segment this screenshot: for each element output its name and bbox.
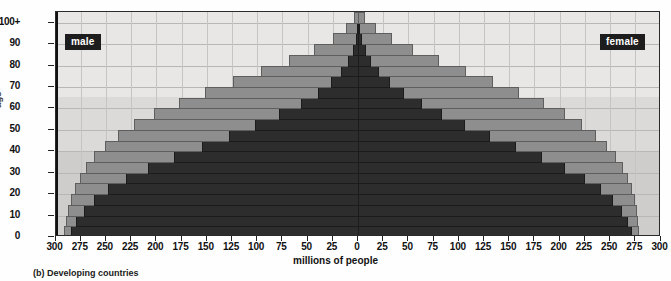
y-tick-label: 40	[0, 144, 20, 155]
y-tick-label: 100+	[0, 16, 20, 27]
bar-male-current-25-29	[126, 173, 359, 185]
bar-male-current-75-79	[341, 66, 359, 78]
bar-female-current-90-94	[358, 33, 362, 45]
bar-male-current-45-49	[229, 130, 359, 142]
bar-female-current-25-29	[358, 173, 585, 185]
y-tick	[48, 86, 54, 87]
bar-male-current-50-54	[255, 119, 359, 131]
bar-female-current-5-9	[358, 216, 628, 228]
bar-male-current-40-44	[202, 141, 359, 153]
y-tick	[48, 215, 54, 216]
bar-male-current-20-24	[108, 183, 359, 195]
y-tick-label: 0	[0, 230, 20, 241]
bar-female-current-45-49	[358, 130, 490, 142]
bar-female-current-30-34	[358, 162, 565, 174]
bar-male-current-55-59	[279, 108, 359, 120]
bar-female-current-75-79	[358, 66, 379, 78]
bar-female-current-40-44	[358, 141, 516, 153]
bar-female-projected-90-94	[358, 33, 392, 45]
y-tick	[48, 236, 54, 237]
y-tick-label: 80	[0, 59, 20, 70]
bar-female-current-55-59	[358, 108, 442, 120]
y-tick-label: 60	[0, 101, 20, 112]
bar-female-projected-85-89	[358, 44, 413, 56]
y-tick	[48, 150, 54, 151]
bar-male-current-35-39	[174, 151, 359, 163]
y-tick	[48, 65, 54, 66]
center-axis-line	[56, 12, 58, 235]
figure-caption: (b) Developing countries	[33, 268, 139, 280]
plot-area	[55, 11, 660, 236]
bar-female-current-85-89	[358, 44, 366, 56]
bar-female-current-60-64	[358, 98, 422, 110]
legend-male: male	[65, 34, 101, 50]
population-pyramid-figure: age 0102030405060708090100+ 300275250225…	[0, 0, 671, 281]
bar-female-current-20-24	[358, 183, 601, 195]
y-tick	[48, 193, 54, 194]
bar-female-projected-95-99	[358, 23, 376, 35]
y-tick-label: 50	[0, 123, 20, 134]
bar-female-current-35-39	[358, 151, 542, 163]
bar-female-projected-100+	[358, 12, 365, 24]
y-tick-label: 10	[0, 209, 20, 220]
bar-male-current-10-14	[84, 205, 359, 217]
bar-male-current-70-74	[331, 76, 359, 88]
bar-female-current-65-69	[358, 87, 404, 99]
bar-male-current-65-69	[318, 87, 359, 99]
bar-male-current-60-64	[301, 98, 359, 110]
bar-female-current-80-84	[358, 55, 371, 67]
y-tick-label: 90	[0, 37, 20, 48]
legend-female: female	[600, 34, 645, 50]
bar-male-current-0-4	[71, 226, 359, 236]
bar-male-current-30-34	[148, 162, 359, 174]
y-tick-label: 30	[0, 166, 20, 177]
bar-female-current-10-14	[358, 205, 622, 217]
bar-female-current-0-4	[358, 226, 632, 236]
y-tick	[48, 22, 54, 23]
x-tick-label: 300	[643, 241, 671, 252]
y-tick-label: 70	[0, 80, 20, 91]
y-tick	[48, 107, 54, 108]
y-axis-labels: 0102030405060708090100+	[0, 0, 46, 250]
bar-female-current-50-54	[358, 119, 465, 131]
x-axis-title: millions of people	[0, 255, 671, 266]
y-tick	[48, 129, 54, 130]
bar-male-current-5-9	[76, 216, 359, 228]
bar-male-current-15-19	[94, 194, 359, 206]
bar-female-current-70-74	[358, 76, 390, 88]
y-tick-label: 20	[0, 187, 20, 198]
y-tick	[48, 172, 54, 173]
bar-female-current-95-99	[358, 23, 360, 35]
y-tick	[48, 43, 54, 44]
bar-female-current-15-19	[358, 194, 613, 206]
